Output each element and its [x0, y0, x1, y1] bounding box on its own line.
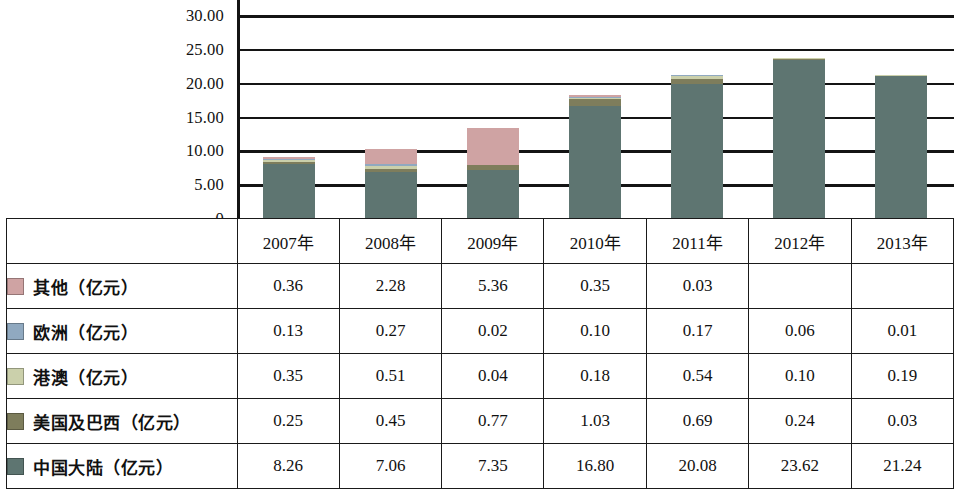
table-value-cell: 0.27: [339, 309, 441, 354]
table-header-row: 2007年2008年2009年2010年2011年2012年2013年: [7, 219, 954, 264]
bar-segment: [773, 60, 825, 220]
bar-column: [238, 8, 340, 220]
bar-segment: [569, 106, 621, 220]
table-value-cell: 16.80: [544, 444, 646, 489]
table-value-cell: 0.18: [544, 354, 646, 399]
table-value-cell: 0.54: [646, 354, 748, 399]
table-value-cell: 21.24: [851, 444, 953, 489]
table-value-cell: 0.35: [544, 264, 646, 309]
table-value-cell: 0.35: [237, 354, 339, 399]
y-axis-tick-label: 5.00: [194, 177, 224, 194]
table-value-cell: 0.10: [544, 309, 646, 354]
bar-segment: [263, 164, 315, 220]
bar-stack[interactable]: [365, 149, 417, 220]
table-value-cell: 20.08: [646, 444, 748, 489]
table-value-cell: 0.36: [237, 264, 339, 309]
table-row: 其他（亿元）0.362.285.360.350.03: [7, 264, 954, 309]
bar-column: [850, 8, 952, 220]
bar-stack[interactable]: [569, 95, 621, 220]
table-value-cell: 0.19: [851, 354, 953, 399]
table-value-cell: 0.02: [442, 309, 544, 354]
bar-segment: [875, 76, 927, 220]
bar-stack[interactable]: [875, 75, 927, 220]
legend-label: 其他（亿元）: [33, 274, 138, 299]
table-year-header: 2010年: [544, 219, 646, 264]
bar-stack[interactable]: [467, 128, 519, 220]
table-value-cell: 0.45: [339, 399, 441, 444]
legend-row-label-cell: 其他（亿元）: [7, 264, 238, 309]
legend-row-label-cell: 欧洲（亿元）: [7, 309, 238, 354]
y-axis-tick-label: 15.00: [186, 109, 224, 126]
bar-column: [442, 8, 544, 220]
legend-color-swatch-icon: [7, 413, 24, 430]
bar-segment: [671, 84, 723, 220]
table-value-cell: 0.25: [237, 399, 339, 444]
table-value-cell: 0.17: [646, 309, 748, 354]
bar-column: [340, 8, 442, 220]
table-value-cell: 7.35: [442, 444, 544, 489]
table-value-cell: 2.28: [339, 264, 441, 309]
table-value-cell: 23.62: [749, 444, 851, 489]
table-value-cell: 0.04: [442, 354, 544, 399]
legend-color-swatch-icon: [7, 368, 24, 385]
table-value-cell: 5.36: [442, 264, 544, 309]
table-corner-cell: [7, 219, 238, 264]
bar-segment: [467, 170, 519, 220]
legend-label: 港澳（亿元）: [33, 364, 138, 389]
plot-area: [238, 0, 954, 228]
table-year-header: 2011年: [646, 219, 748, 264]
table-value-cell: 0.03: [646, 264, 748, 309]
bar-segment: [569, 99, 621, 106]
bar-stack[interactable]: [773, 58, 825, 221]
legend-row-label-cell: 美国及巴西（亿元）: [7, 399, 238, 444]
table-value-cell: 0.10: [749, 354, 851, 399]
legend-entry: 其他（亿元）: [7, 274, 237, 299]
y-axis-tick-label: 30.00: [186, 8, 224, 25]
data-table-container: 2007年2008年2009年2010年2011年2012年2013年 其他（亿…: [0, 218, 954, 474]
bar-segment: [467, 128, 519, 164]
table-year-header: 2012年: [749, 219, 851, 264]
table-value-cell: 0.01: [851, 309, 953, 354]
table-row: 港澳（亿元）0.350.510.040.180.540.100.19: [7, 354, 954, 399]
bar-column: [544, 8, 646, 220]
legend-entry: 欧洲（亿元）: [7, 319, 237, 344]
bar-segment: [365, 149, 417, 164]
table-row: 中国大陆（亿元）8.267.067.3516.8020.0823.6221.24: [7, 444, 954, 489]
bar-stack[interactable]: [263, 157, 315, 220]
table-value-cell: 0.24: [749, 399, 851, 444]
table-value-cell: [851, 264, 953, 309]
legend-label: 美国及巴西（亿元）: [33, 409, 191, 434]
table-year-header: 2008年: [339, 219, 441, 264]
legend-row-label-cell: 中国大陆（亿元）: [7, 444, 238, 489]
table-value-cell: [749, 264, 851, 309]
bar-column: [646, 8, 748, 220]
legend-color-swatch-icon: [7, 278, 24, 295]
table-value-cell: 1.03: [544, 399, 646, 444]
legend-label: 欧洲（亿元）: [33, 319, 138, 344]
y-axis-tick-label: 10.00: [186, 143, 224, 160]
table-year-header: 2007年: [237, 219, 339, 264]
legend-label: 中国大陆（亿元）: [33, 454, 173, 479]
table-value-cell: 0.06: [749, 309, 851, 354]
bar-segment: [365, 172, 417, 220]
table-value-cell: 0.03: [851, 399, 953, 444]
bar-stack[interactable]: [671, 75, 723, 220]
y-axis: 05.0010.0015.0020.0025.0030.00: [150, 0, 230, 228]
data-table: 2007年2008年2009年2010年2011年2012年2013年 其他（亿…: [6, 218, 954, 489]
table-row: 美国及巴西（亿元）0.250.450.771.030.690.240.03: [7, 399, 954, 444]
data-table-body: 2007年2008年2009年2010年2011年2012年2013年 其他（亿…: [7, 219, 954, 489]
y-axis-tick-label: 20.00: [186, 75, 224, 92]
legend-row-label-cell: 港澳（亿元）: [7, 354, 238, 399]
table-year-header: 2013年: [851, 219, 953, 264]
table-value-cell: 0.13: [237, 309, 339, 354]
legend-entry: 美国及巴西（亿元）: [7, 409, 237, 434]
bar-column: [748, 8, 850, 220]
y-axis-tick-label: 25.00: [186, 42, 224, 59]
table-year-header: 2009年: [442, 219, 544, 264]
table-value-cell: 7.06: [339, 444, 441, 489]
legend-entry: 中国大陆（亿元）: [7, 454, 237, 479]
legend-color-swatch-icon: [7, 323, 24, 340]
stacked-bar-chart: 05.0010.0015.0020.0025.0030.00: [0, 0, 954, 228]
legend-entry: 港澳（亿元）: [7, 364, 237, 389]
table-value-cell: 8.26: [237, 444, 339, 489]
